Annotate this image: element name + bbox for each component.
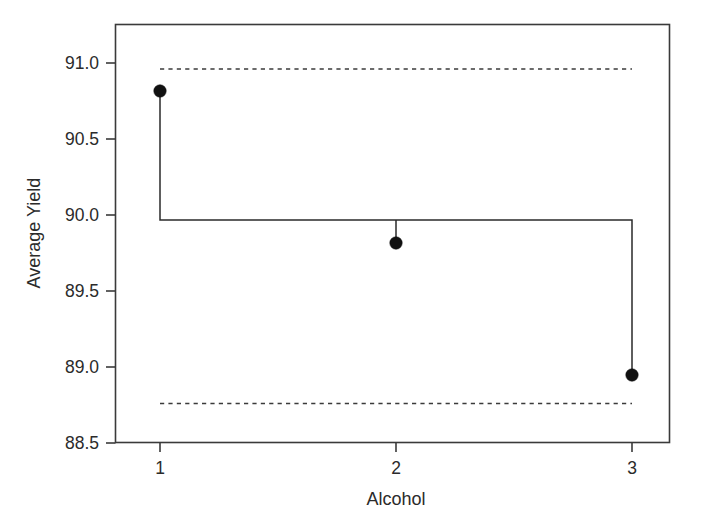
x-axis-ticks	[160, 443, 632, 453]
data-point-level-1	[154, 85, 166, 97]
y-tick-label-89-0: 89.0	[65, 357, 99, 377]
y-tick-label-89-5: 89.5	[65, 281, 99, 301]
y-tick-label-90-0: 90.0	[65, 205, 99, 225]
y-axis-tick-labels: 91.0 90.5 90.0 89.5 89.0 88.5	[65, 53, 99, 453]
x-tick-label-1: 1	[155, 458, 165, 478]
plot-frame	[116, 25, 670, 443]
y-tick-label-90-5: 90.5	[65, 129, 99, 149]
data-point-level-2	[390, 237, 402, 249]
y-axis-ticks	[106, 63, 116, 443]
y-tick-label-91-0: 91.0	[65, 53, 99, 73]
y-tick-label-88-5: 88.5	[65, 433, 99, 453]
y-axis-title: Average Yield	[24, 178, 44, 289]
data-point-level-3	[626, 369, 638, 381]
x-axis-tick-labels: 1 2 3	[155, 458, 637, 478]
x-tick-label-2: 2	[391, 458, 401, 478]
main-effects-plot-figure: 91.0 90.5 90.0 89.5 89.0 88.5 1 2 3	[0, 0, 705, 527]
chart-canvas: 91.0 90.5 90.0 89.5 89.0 88.5 1 2 3	[0, 0, 705, 527]
x-axis-title: Alcohol	[366, 489, 425, 509]
x-tick-label-3: 3	[627, 458, 637, 478]
